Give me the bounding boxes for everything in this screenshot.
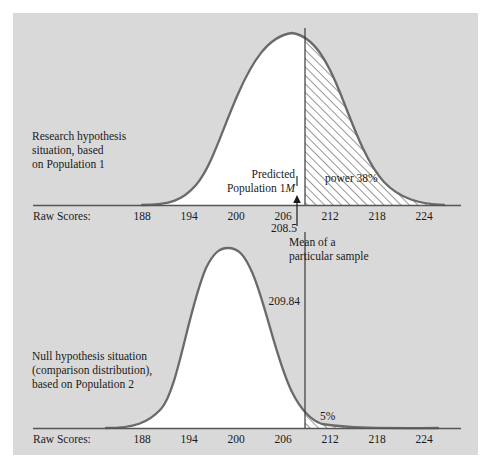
- bottom-raw-scores-label: Raw Scores:: [33, 433, 91, 445]
- predicted-mean-population-text: Population 1: [227, 182, 285, 194]
- bottom-tick-212: 212: [310, 433, 350, 445]
- predicted-mean-label-line2: Population 1M: [199, 182, 295, 196]
- bottom-tick-200: 200: [216, 433, 256, 445]
- top-tick-194: 194: [169, 210, 209, 222]
- top-tick-188: 188: [122, 210, 162, 222]
- top-raw-scores-label: Raw Scores:: [33, 210, 91, 222]
- distributions-svg: [0, 0, 491, 466]
- cutoff-value-label: 209.84: [238, 295, 300, 307]
- null-hypothesis-caption: Null hypothesis situation (comparison di…: [32, 350, 152, 391]
- bottom-tick-194: 194: [169, 433, 209, 445]
- significance-region-label: 5%: [320, 410, 335, 422]
- research-hypothesis-caption: Research hypothesis situation, based on …: [32, 130, 126, 171]
- top-tick-224: 224: [404, 210, 444, 222]
- statistical-power-figure: Research hypothesis situation, based on …: [0, 0, 491, 466]
- bottom-tick-224: 224: [404, 433, 444, 445]
- sample-mean-caption: Mean of a particular sample: [289, 236, 369, 263]
- power-region-label: power 38%: [325, 172, 378, 184]
- top-distribution-group: [33, 28, 461, 226]
- predicted-mean-m-symbol: M: [285, 182, 295, 194]
- sample-mean-value-label: 208.5: [271, 222, 297, 236]
- top-tick-206: 206: [263, 210, 303, 222]
- top-tick-212: 212: [310, 210, 350, 222]
- predicted-mean-label-line1: Predicted: [219, 168, 295, 182]
- bottom-tick-188: 188: [122, 433, 162, 445]
- top-tick-218: 218: [357, 210, 397, 222]
- bottom-tick-218: 218: [357, 433, 397, 445]
- bottom-distribution-group: [33, 232, 461, 429]
- bottom-tick-206: 206: [263, 433, 303, 445]
- top-tick-200: 200: [216, 210, 256, 222]
